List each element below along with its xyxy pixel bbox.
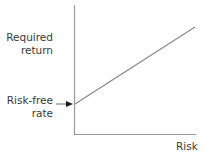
risk-free-label-line1: Risk-free [7,94,53,107]
required-return-line [75,27,195,104]
y-axis-label-line2: return [21,44,53,57]
risk-return-chart: Required return Risk-free rate Risk [0,0,205,160]
y-axis-label-line1: Required [6,31,53,44]
arrow-head-icon [66,101,73,107]
risk-free-label-line2: rate [32,107,53,120]
x-axis-label: Risk [176,140,198,153]
chart-canvas [0,0,205,160]
